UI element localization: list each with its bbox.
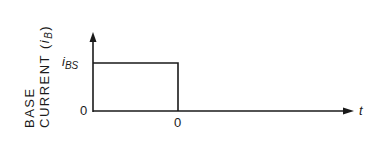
y-axis-label-line2: CURRENT (iB) — [37, 25, 56, 128]
y-axis-label-line1: BASE — [22, 25, 37, 128]
y-axis-arrow-icon — [90, 32, 97, 42]
x-tick-zero: 0 — [174, 115, 181, 130]
x-axis-arrow-icon — [343, 108, 354, 115]
y-axis-label: BASE CURRENT (iB) — [22, 25, 56, 128]
pulse-waveform — [93, 63, 178, 111]
y-tick-zero: 0 — [80, 103, 87, 118]
base-current-plot — [0, 0, 376, 162]
y-tick-ibs: iBS — [62, 54, 78, 71]
x-axis-label: t — [359, 103, 363, 118]
